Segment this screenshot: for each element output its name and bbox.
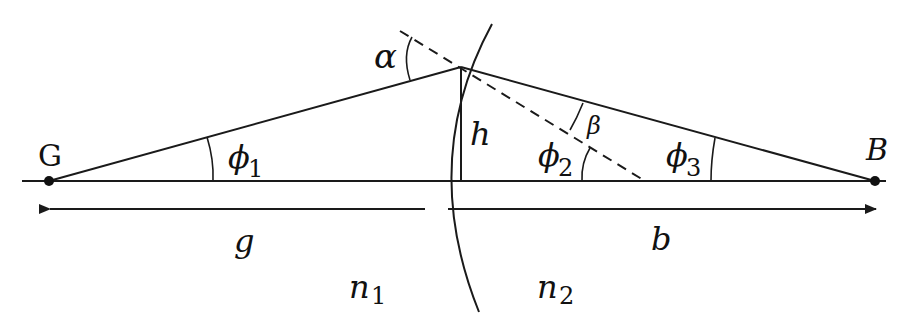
object-point-G bbox=[44, 176, 54, 186]
svg-text:n: n bbox=[537, 268, 558, 306]
label-beta: β bbox=[586, 112, 601, 140]
angle-arc-phi2 bbox=[582, 148, 590, 181]
label-h: h bbox=[470, 115, 491, 153]
angle-arc-phi3 bbox=[711, 138, 715, 181]
label-phi2: ϕ 2 bbox=[538, 136, 573, 182]
refraction-diagram: G B α β h ϕ 1 ϕ 2 ϕ 3 g b n 1 n 2 bbox=[0, 0, 920, 332]
label-phi3: ϕ 3 bbox=[666, 136, 701, 182]
label-B: B bbox=[865, 132, 888, 167]
svg-text:3: 3 bbox=[686, 154, 701, 182]
svg-text:1: 1 bbox=[248, 155, 263, 183]
svg-text:n: n bbox=[349, 268, 370, 306]
label-n1: n 1 bbox=[349, 268, 386, 310]
label-phi1: ϕ 1 bbox=[228, 138, 263, 183]
svg-text:1: 1 bbox=[371, 282, 386, 310]
label-G: G bbox=[38, 138, 62, 173]
label-alpha: α bbox=[374, 36, 397, 76]
angle-arc-phi1 bbox=[207, 137, 213, 181]
svg-text:2: 2 bbox=[559, 282, 574, 310]
angle-arc-beta bbox=[570, 103, 583, 130]
svg-text:2: 2 bbox=[558, 154, 573, 182]
diagram-svg: G B α β h ϕ 1 ϕ 2 ϕ 3 g b n 1 n 2 bbox=[0, 0, 920, 332]
label-b: b bbox=[651, 220, 671, 258]
svg-text:ϕ: ϕ bbox=[538, 136, 560, 174]
svg-text:ϕ: ϕ bbox=[228, 138, 250, 176]
image-point-B bbox=[870, 176, 880, 186]
label-n2: n 2 bbox=[537, 268, 574, 310]
surface-normal-dashed bbox=[400, 31, 645, 181]
label-g: g bbox=[234, 222, 254, 260]
angle-arc-alpha bbox=[406, 37, 412, 80]
svg-text:ϕ: ϕ bbox=[666, 136, 688, 174]
